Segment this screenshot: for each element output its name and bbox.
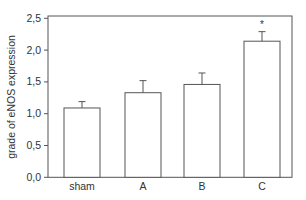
significance-marker: * xyxy=(260,19,264,30)
bar-B xyxy=(184,84,220,177)
y-tick-label: 0,0 xyxy=(26,171,41,183)
chart-canvas: 0,00,51,01,52,02,5 * shamABC grade of eN… xyxy=(0,0,306,200)
bars: * xyxy=(64,19,280,178)
x-tick-label: B xyxy=(198,180,205,192)
x-tick-label: sham xyxy=(69,180,95,192)
y-axis: 0,00,51,01,52,02,5 xyxy=(26,12,48,183)
y-tick-label: 1,5 xyxy=(26,75,41,87)
x-tick-label: A xyxy=(139,180,146,192)
y-tick-label: 1,0 xyxy=(26,107,41,119)
bar-chart: 0,00,51,01,52,02,5 * shamABC grade of eN… xyxy=(0,0,306,200)
x-axis: shamABC xyxy=(69,180,266,192)
bar-C xyxy=(244,41,280,177)
x-tick-label: C xyxy=(258,180,266,192)
bar-A xyxy=(125,93,161,178)
y-axis-label: grade of eNOS expression xyxy=(5,35,17,159)
y-tick-label: 2,0 xyxy=(26,44,41,56)
bar-sham xyxy=(64,108,100,177)
y-tick-label: 0,5 xyxy=(26,139,41,151)
y-tick-label: 2,5 xyxy=(26,12,41,24)
